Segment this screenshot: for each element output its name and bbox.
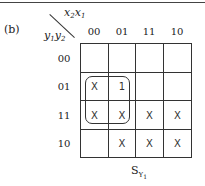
map-caption: SY1 xyxy=(131,164,147,181)
prime-implicant-loop xyxy=(85,76,130,124)
column-header-00: 00 xyxy=(80,26,108,37)
cell-00-10 xyxy=(164,44,192,73)
row-variables: y1y2 xyxy=(44,30,65,43)
row-var-y2-sub: 2 xyxy=(61,35,65,43)
caption-s: S xyxy=(131,164,139,177)
row-header-11: 11 xyxy=(54,110,74,121)
figure-label: (b) xyxy=(4,24,20,35)
cell-00-11 xyxy=(136,44,164,73)
cell-10-11: X xyxy=(136,130,164,158)
cell-00-00 xyxy=(81,44,109,73)
row-header-00: 00 xyxy=(54,53,74,64)
cell-10-01: X xyxy=(109,130,136,158)
row-header-10: 10 xyxy=(54,138,74,149)
column-header-10: 10 xyxy=(163,26,191,37)
column-variables: x2x1 xyxy=(64,7,85,20)
cell-11-10: X xyxy=(164,101,192,130)
cell-01-10 xyxy=(164,73,192,101)
column-header-11: 11 xyxy=(135,26,163,37)
cell-11-11: X xyxy=(136,101,164,130)
column-header-01: 01 xyxy=(108,26,136,37)
col-var-x1-sub: 1 xyxy=(81,12,85,20)
cell-10-10: X xyxy=(164,130,192,158)
row-header-01: 01 xyxy=(54,81,74,92)
cell-00-01 xyxy=(109,44,136,73)
caption-y-sub: 1 xyxy=(143,174,147,181)
cell-10-00 xyxy=(81,130,109,158)
top-rule xyxy=(0,2,205,3)
cell-01-11 xyxy=(136,73,164,101)
